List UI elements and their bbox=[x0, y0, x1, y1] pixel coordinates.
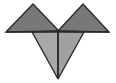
tangram-heart-figure bbox=[0, 0, 116, 83]
